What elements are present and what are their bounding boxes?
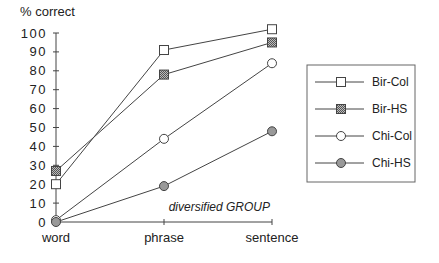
filled-circle-marker-icon bbox=[268, 127, 277, 136]
hatched-square-marker-icon bbox=[160, 70, 169, 79]
annotation: diversified GROUP bbox=[169, 200, 270, 214]
circle-marker-icon bbox=[268, 59, 277, 68]
y-tick-label: 80 bbox=[30, 63, 47, 78]
square-marker-icon bbox=[160, 46, 169, 55]
y-tick-label: 50 bbox=[30, 120, 47, 135]
filled-circle-marker-icon bbox=[337, 159, 346, 168]
square-marker-icon bbox=[52, 180, 61, 189]
legend-label: Bir-HS bbox=[372, 102, 407, 116]
y-axis: 0102030405060708090100 bbox=[21, 26, 59, 230]
hatched-square-marker-icon bbox=[268, 38, 277, 47]
y-tick-label: 0 bbox=[38, 215, 47, 230]
x-axis: wordphrasesentence bbox=[41, 219, 298, 245]
line-chart: % correct 0102030405060708090100 wordphr… bbox=[0, 0, 439, 263]
y-tick-label: 30 bbox=[30, 158, 47, 173]
y-tick-label: 70 bbox=[30, 82, 47, 97]
square-marker-icon bbox=[337, 78, 346, 87]
y-tick-label: 90 bbox=[30, 44, 47, 59]
y-tick-label: 60 bbox=[30, 101, 47, 116]
hatched-square-marker-icon bbox=[52, 166, 61, 175]
legend-label: Chi-HS bbox=[372, 156, 411, 170]
y-tick-label: 100 bbox=[21, 26, 47, 41]
legend-label: Bir-Col bbox=[372, 75, 409, 89]
series-bir-col bbox=[52, 25, 277, 189]
square-marker-icon bbox=[268, 25, 277, 34]
circle-marker-icon bbox=[160, 134, 169, 143]
legend-label: Chi-Col bbox=[372, 129, 412, 143]
series-lines bbox=[52, 25, 277, 227]
hatched-square-marker-icon bbox=[337, 105, 346, 114]
legend: Bir-ColBir-HSChi-ColChi-HS bbox=[307, 65, 415, 182]
y-axis-title: % correct bbox=[20, 4, 75, 19]
x-tick-label: phrase bbox=[144, 230, 184, 245]
y-tick-label: 20 bbox=[30, 177, 47, 192]
circle-marker-icon bbox=[337, 132, 346, 141]
y-tick-label: 40 bbox=[30, 139, 47, 154]
series-bir-hs bbox=[52, 38, 277, 176]
x-tick-label: sentence bbox=[246, 230, 299, 245]
y-tick-label: 10 bbox=[30, 196, 47, 211]
filled-circle-marker-icon bbox=[52, 218, 61, 227]
filled-circle-marker-icon bbox=[160, 182, 169, 191]
x-tick-label: word bbox=[41, 230, 70, 245]
